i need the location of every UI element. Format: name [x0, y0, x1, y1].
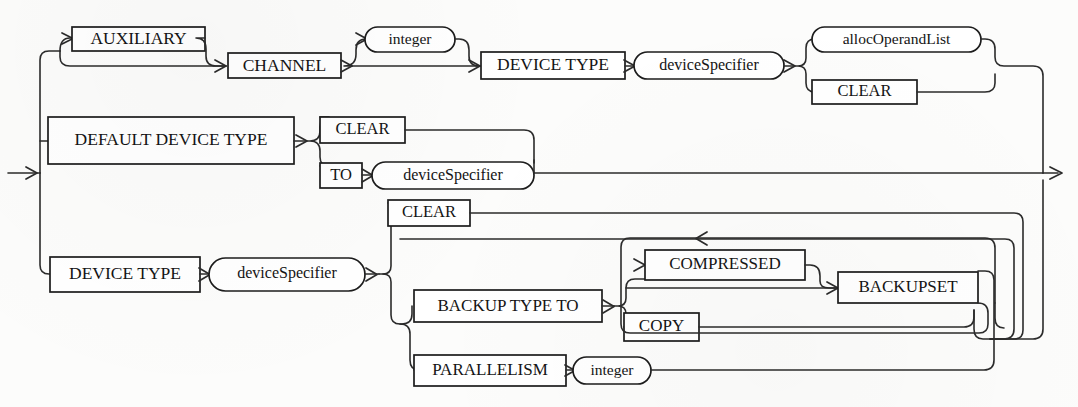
- branch3-choice-entry-arrow: [365, 268, 379, 281]
- node-auxiliary-label: AUXILIARY: [90, 28, 187, 48]
- railroad-diagram-canvas: AUXILIARY CHANNEL integer DEVICE TYPE de…: [0, 0, 1078, 407]
- backup-choice-entry-arrow: [602, 300, 614, 313]
- node-clear-bottom-label: CLEAR: [402, 202, 456, 221]
- node-backupset-label: BACKUPSET: [858, 277, 958, 296]
- node-device-specifier-top-label: deviceSpecifier: [659, 56, 759, 74]
- node-clear-top-label: CLEAR: [837, 81, 891, 100]
- node-to-label: TO: [330, 165, 352, 184]
- node-device-specifier-mid-label: deviceSpecifier: [403, 166, 503, 184]
- default-choice-entry-arrow: [294, 135, 307, 147]
- copy-merge: [699, 310, 974, 327]
- node-integer-top-label: integer: [388, 30, 432, 47]
- alloc-choice-entry-arrow: [784, 60, 795, 72]
- left-rail-lower: [40, 173, 50, 274]
- node-device-type-top-label: DEVICE TYPE: [497, 54, 609, 74]
- clear-top-merge: [917, 74, 995, 92]
- branch3-fan-rail-2: [383, 274, 412, 324]
- auxiliary-bypass: [60, 51, 226, 66]
- compressed-entry-arrow: [634, 259, 645, 271]
- node-clear-mid-label: CLEAR: [335, 119, 389, 138]
- integer-branch-up: [344, 39, 366, 66]
- node-device-type-bottom-label: DEVICE TYPE: [69, 263, 181, 283]
- node-parallelism-label: PARALLELISM: [432, 360, 548, 379]
- entry-arrow: [8, 167, 40, 179]
- node-alloc-operand-list-label: allocOperandList: [843, 30, 951, 47]
- node-backup-type-to-label: BACKUP TYPE TO: [437, 296, 578, 315]
- integer-branch-down: [455, 39, 480, 66]
- alloc-merge: [981, 39, 1043, 173]
- node-device-specifier-bottom-label: deviceSpecifier: [237, 264, 337, 282]
- clear-bottom-return-tail: [990, 180, 1043, 339]
- node-integer-bottom-label: integer: [590, 361, 634, 378]
- railroad-diagram-svg: AUXILIARY CHANNEL integer DEVICE TYPE de…: [0, 0, 1078, 407]
- node-compressed-label: COMPRESSED: [669, 254, 780, 273]
- backup-return: [995, 303, 1004, 328]
- exit-arrow: [1043, 167, 1062, 179]
- node-channel-label: CHANNEL: [243, 55, 327, 75]
- node-default-device-type-label: DEFAULT DEVICE TYPE: [75, 129, 268, 149]
